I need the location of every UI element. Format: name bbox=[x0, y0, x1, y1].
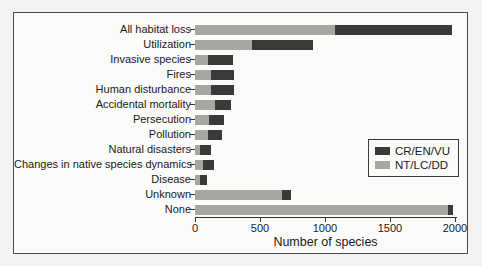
bar-segment-nt-lc-dd bbox=[195, 160, 203, 170]
bar-segment-cr-en-vu bbox=[208, 55, 233, 65]
stacked-bar bbox=[195, 205, 453, 215]
x-axis-tick-label: 0 bbox=[175, 222, 215, 234]
x-axis-tick-label: 1000 bbox=[305, 222, 345, 234]
chart-row: None bbox=[14, 202, 467, 217]
x-axis-title: Number of species bbox=[195, 235, 456, 249]
stacked-bar bbox=[195, 130, 222, 140]
category-label: Human disturbance bbox=[14, 82, 191, 97]
chart-row: Unknown bbox=[14, 187, 467, 202]
bar-segment-cr-en-vu bbox=[211, 85, 234, 95]
bar-segment-cr-en-vu bbox=[209, 115, 224, 125]
bar-segment-cr-en-vu bbox=[200, 145, 210, 155]
legend-box: CR/EN/VUNT/LC/DD bbox=[368, 139, 459, 177]
bar-segment-nt-lc-dd bbox=[195, 190, 282, 200]
bar-segment-nt-lc-dd bbox=[195, 130, 208, 140]
stacked-bar bbox=[195, 70, 234, 80]
category-label: None bbox=[14, 202, 191, 217]
chart-row: Fires bbox=[14, 67, 467, 82]
bar-segment-cr-en-vu bbox=[282, 190, 291, 200]
bar-segment-cr-en-vu bbox=[252, 40, 312, 50]
stacked-bar bbox=[195, 175, 207, 185]
bar-segment-cr-en-vu bbox=[448, 205, 453, 215]
category-label: Changes in native species dynamics bbox=[14, 157, 191, 172]
chart-figure: All habitat lossUtilizationInvasive spec… bbox=[13, 12, 468, 254]
category-label: Utilization bbox=[14, 37, 191, 52]
bar-segment-nt-lc-dd bbox=[195, 40, 252, 50]
bar-segment-nt-lc-dd bbox=[195, 100, 215, 110]
chart-row: Accidental mortality bbox=[14, 97, 467, 112]
x-axis-tick-label: 2000 bbox=[435, 222, 475, 234]
legend-swatch-icon bbox=[375, 161, 390, 169]
chart-row: Human disturbance bbox=[14, 82, 467, 97]
legend-label: CR/EN/VU bbox=[395, 144, 450, 158]
category-label: Natural disasters bbox=[14, 142, 191, 157]
legend-entry: NT/LC/DD bbox=[375, 158, 450, 172]
stacked-bar bbox=[195, 145, 211, 155]
bar-segment-nt-lc-dd bbox=[195, 70, 211, 80]
category-label: Pollution bbox=[14, 127, 191, 142]
stacked-bar bbox=[195, 115, 224, 125]
category-label: Unknown bbox=[14, 187, 191, 202]
category-label: Invasive species bbox=[14, 52, 191, 67]
bar-segment-nt-lc-dd bbox=[195, 25, 335, 35]
legend-label: NT/LC/DD bbox=[395, 158, 448, 172]
bar-segment-cr-en-vu bbox=[211, 70, 234, 80]
stacked-bar bbox=[195, 190, 291, 200]
page: { "figure": { "title": "", "xlabel": "Nu… bbox=[0, 0, 482, 266]
bar-segment-nt-lc-dd bbox=[195, 55, 208, 65]
chart-row: All habitat loss bbox=[14, 22, 467, 37]
bar-segment-cr-en-vu bbox=[208, 130, 222, 140]
bar-rows: All habitat lossUtilizationInvasive spec… bbox=[14, 22, 467, 217]
bar-segment-cr-en-vu bbox=[203, 160, 214, 170]
bar-segment-cr-en-vu bbox=[200, 175, 207, 185]
bar-segment-cr-en-vu bbox=[335, 25, 451, 35]
category-label: All habitat loss bbox=[14, 22, 191, 37]
chart-row: Invasive species bbox=[14, 52, 467, 67]
bar-segment-nt-lc-dd bbox=[195, 205, 448, 215]
stacked-bar bbox=[195, 40, 313, 50]
category-label: Persecution bbox=[14, 112, 191, 127]
stacked-bar bbox=[195, 55, 233, 65]
x-axis-line bbox=[195, 217, 457, 218]
stacked-bar bbox=[195, 85, 234, 95]
stacked-bar bbox=[195, 160, 214, 170]
chart-row: Utilization bbox=[14, 37, 467, 52]
x-axis-tick-label: 1500 bbox=[370, 222, 410, 234]
x-axis-tick-label: 500 bbox=[240, 222, 280, 234]
category-label: Fires bbox=[14, 67, 191, 82]
bar-segment-nt-lc-dd bbox=[195, 85, 211, 95]
stacked-bar bbox=[195, 100, 231, 110]
category-label: Disease bbox=[14, 172, 191, 187]
stacked-bar bbox=[195, 25, 452, 35]
category-label: Accidental mortality bbox=[14, 97, 191, 112]
bar-segment-cr-en-vu bbox=[215, 100, 231, 110]
legend-entry: CR/EN/VU bbox=[375, 144, 450, 158]
chart-row: Persecution bbox=[14, 112, 467, 127]
legend-swatch-icon bbox=[375, 147, 390, 155]
bar-segment-nt-lc-dd bbox=[195, 115, 209, 125]
